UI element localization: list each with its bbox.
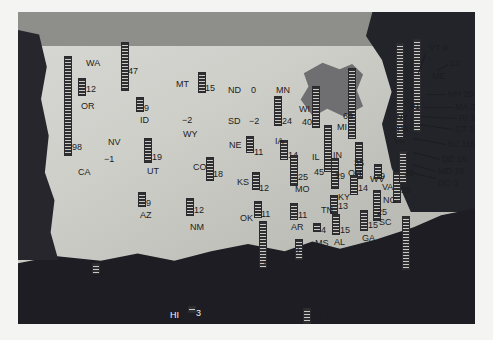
state-bar-nm <box>186 198 194 216</box>
state-bar-id <box>136 97 144 112</box>
state-value-ar: 11 <box>298 211 307 220</box>
state-abbr-wa: WA <box>86 59 100 68</box>
state-bar-or <box>78 78 86 96</box>
state-abbr-ca: CA <box>78 168 91 177</box>
callout-leader-line <box>426 94 446 95</box>
map-figure: 47WA12OR98CA−1NV9ID15MT−2WY19UT9AZ12NM18… <box>0 0 493 340</box>
state-abbr-fl: FL <box>394 278 405 287</box>
state-value-ca: 98 <box>72 143 82 152</box>
state-abbr-nv: NV <box>108 138 121 147</box>
state-bar-ky <box>350 175 358 195</box>
callout-label-dc: DC 1 <box>438 179 459 188</box>
state-bar-va <box>399 151 407 183</box>
state-abbr-nd: ND <box>228 86 241 95</box>
state-abbr-co: CO <box>193 163 207 172</box>
state-abbr-hi: HI <box>170 311 179 320</box>
state-value-sc: 25 <box>377 208 387 217</box>
state-value-wa: 47 <box>128 67 138 76</box>
state-abbr-nm: NM <box>190 223 204 232</box>
state-abbr-nc: NC <box>383 196 396 205</box>
state-value-co: 18 <box>213 170 223 179</box>
state-abbr-ar: AR <box>291 223 304 232</box>
state-value-nm: 12 <box>194 206 204 215</box>
state-value-wi: 40 <box>302 118 312 127</box>
state-value-il: 45 <box>314 168 324 177</box>
state-abbr-ak: AK <box>100 279 112 288</box>
state-value-ms: 4 <box>321 226 326 235</box>
state-value-nv: −1 <box>104 155 114 164</box>
state-abbr-tx: TX <box>233 248 245 257</box>
state-bar-ut <box>144 138 152 163</box>
callout-label-de: DE 15 <box>442 155 467 164</box>
state-abbr-pa: PA <box>397 125 408 134</box>
state-bar-ca <box>64 56 72 156</box>
state-bar-ar <box>290 203 298 220</box>
state-value-az: 9 <box>146 199 151 208</box>
state-value-in: 29 <box>335 172 345 181</box>
callout-label-12: 12 <box>450 59 460 68</box>
state-bar-ms <box>313 223 321 232</box>
state-abbr-id: ID <box>140 116 149 125</box>
state-abbr-ms: MS <box>315 239 329 248</box>
callout-label-vt: VT 9 <box>429 44 448 53</box>
state-value-nc: 29 <box>401 186 411 195</box>
state-abbr-mt: MT <box>176 80 189 89</box>
state-value-hi: 3 <box>196 309 201 318</box>
state-abbr-or: OR <box>81 102 95 111</box>
state-abbr-mi: MI <box>337 123 347 132</box>
state-value-ny: 91 <box>410 102 420 111</box>
state-abbr-mn: MN <box>276 86 290 95</box>
state-bar-az <box>138 192 146 207</box>
state-value-ne: 11 <box>254 148 263 157</box>
state-value-mo: 25 <box>298 173 308 182</box>
state-value-pa: 95 <box>394 136 404 145</box>
state-bar-ny <box>413 39 421 132</box>
state-value-ut: 19 <box>152 153 162 162</box>
state-bar-al <box>332 214 340 235</box>
state-value-ks: 12 <box>259 184 269 193</box>
state-abbr-il: IL <box>312 153 320 162</box>
state-value-id: 9 <box>144 104 149 113</box>
state-abbr-ks: KS <box>237 178 249 187</box>
state-value-mt: 15 <box>205 84 215 93</box>
state-bar-hi <box>188 306 196 313</box>
state-bar-mo <box>290 155 298 186</box>
state-value-mi: 69 <box>343 112 353 121</box>
state-abbr-va: VA <box>382 183 393 192</box>
state-abbr-al: AL <box>334 238 345 247</box>
state-value-sd: −2 <box>249 117 259 126</box>
callout-label-nj: NJ 116 <box>448 140 475 149</box>
state-abbr-ny: NY <box>396 113 409 122</box>
state-abbr-wv: WV <box>370 175 385 184</box>
state-value-nd: 0 <box>251 86 256 95</box>
state-value-tn: 13 <box>338 202 348 211</box>
state-abbr-in: IN <box>333 151 342 160</box>
callout-label-nh: NH 20 <box>448 90 474 99</box>
state-value-ga: 15 <box>368 221 378 230</box>
map-panel: 47WA12OR98CA−1NV9ID15MT−2WY19UT9AZ12NM18… <box>18 12 475 324</box>
state-value-tx: 45 <box>264 258 274 267</box>
legend: = 10 <box>303 308 337 324</box>
state-value-ok: 11 <box>261 210 270 219</box>
state-abbr-wy: WY <box>183 130 198 139</box>
legend-label: = 10 <box>315 310 337 322</box>
state-abbr-az: AZ <box>140 211 152 220</box>
state-value-or: 12 <box>86 85 96 94</box>
callout-label-ri: RI 12 <box>459 114 475 123</box>
callout-label-ma: MA 32 <box>455 103 475 112</box>
state-abbr-wi: WI <box>299 105 310 114</box>
state-bar-wi <box>312 86 320 128</box>
state-value-mn: 24 <box>282 117 292 126</box>
legend-bar-icon <box>303 308 311 324</box>
state-bar-ga <box>360 210 368 231</box>
state-abbr-ga: GA <box>362 234 375 243</box>
state-value-wy: −2 <box>182 116 192 125</box>
state-abbr-ne: NE <box>229 141 242 150</box>
state-value-ak: 6 <box>100 267 105 276</box>
state-abbr-me: ME <box>432 72 446 81</box>
state-bar-ak <box>92 263 100 274</box>
state-abbr-ia: IA <box>275 137 284 146</box>
state-abbr-mo: MO <box>295 185 310 194</box>
state-value-al: 15 <box>340 226 350 235</box>
state-abbr-la: LA <box>297 246 308 255</box>
